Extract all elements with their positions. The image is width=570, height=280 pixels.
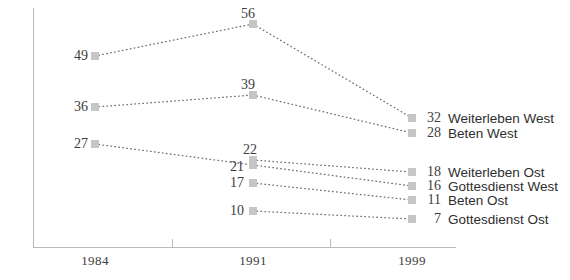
legend-row-weiterleben-west: 32Weiterleben West [421, 110, 554, 126]
marker-beten-ost-1991 [249, 179, 257, 187]
seg-beten-west-b [253, 95, 412, 133]
marker-weiterleben-west-1999 [408, 114, 416, 122]
seg-weiterleben-west-a [95, 24, 253, 56]
value-label-beten-west-1984: 36 [74, 99, 88, 115]
marker-beten-ost-1999 [408, 196, 416, 204]
series-lines [95, 24, 412, 219]
value-label-gottesdienst-ost-1991: 10 [230, 203, 244, 219]
value-label-weiterleben-west-1984: 49 [74, 48, 88, 64]
seg-weiterleben-west-b [253, 24, 412, 118]
legend-label-beten-west: Beten West [448, 126, 518, 141]
legend-value-beten-west: 28 [421, 125, 441, 141]
marker-weiterleben-ost-1999 [408, 168, 416, 176]
value-label-weiterleben-west-1991: 56 [241, 6, 255, 22]
value-label-beten-west-1991: 39 [241, 77, 255, 93]
marker-gottesdienst-west-1984 [91, 140, 99, 148]
legend-label-beten-ost: Beten Ost [448, 193, 508, 208]
marker-gottesdienst-west-1991 [249, 161, 257, 169]
legend-row-beten-ost: 11Beten Ost [421, 192, 508, 208]
marker-gottesdienst-ost-1991 [249, 207, 257, 215]
marker-beten-west-1984 [91, 103, 99, 111]
series-markers [91, 20, 416, 223]
value-label-weiterleben-ost-1991: 22 [243, 142, 257, 158]
legend-label-gottesdienst-ost: Gottesdienst Ost [448, 212, 549, 227]
seg-beten-west-a [95, 95, 253, 107]
legend-value-gottesdienst-ost: 7 [421, 211, 441, 227]
legend-label-weiterleben-west: Weiterleben West [448, 111, 554, 126]
value-label-gottesdienst-west-1984: 27 [74, 136, 88, 152]
seg-weiterleben-ost-b [253, 160, 412, 172]
line-chart: 198419911999 495636392227211710 32Weiter… [0, 0, 570, 280]
seg-beten-ost-b [253, 183, 412, 200]
legend-value-weiterleben-west: 32 [421, 110, 441, 126]
marker-gottesdienst-ost-1999 [408, 215, 416, 223]
seg-gottesdienst-west-b [253, 165, 412, 186]
marker-beten-west-1999 [408, 129, 416, 137]
value-label-beten-ost-1991: 17 [230, 175, 244, 191]
marker-gottesdienst-west-1999 [408, 182, 416, 190]
value-label-gottesdienst-west-1991: 21 [230, 159, 244, 175]
marker-weiterleben-west-1984 [91, 52, 99, 60]
legend-row-beten-west: 28Beten West [421, 125, 518, 141]
legend-value-beten-ost: 11 [421, 192, 441, 208]
seg-gottesdienst-ost-b [253, 211, 412, 219]
legend-row-gottesdienst-ost: 7Gottesdienst Ost [421, 211, 549, 227]
